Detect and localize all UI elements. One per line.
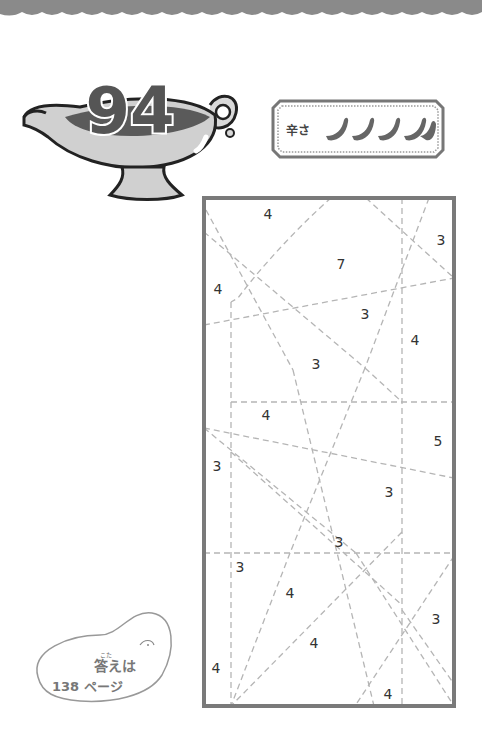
clue-number: 4 [310, 635, 319, 651]
clue-number: 3 [236, 559, 245, 575]
clue-number: 3 [213, 458, 222, 474]
puzzle-number-heading: 94 [10, 45, 240, 205]
clue-number: 3 [312, 356, 321, 372]
clue-number: 4 [264, 206, 273, 222]
clue-number: 3 [432, 611, 441, 627]
clue-number: 3 [437, 232, 446, 248]
clue-number: 4 [384, 686, 393, 702]
clue-number: 5 [434, 433, 443, 449]
puzzle-board: 437434345333343444 [198, 192, 460, 712]
clue-layer: 437434345333343444 [212, 206, 446, 702]
answer-line2: 138 ページ [52, 679, 123, 694]
clue-number: 7 [337, 256, 346, 272]
clue-number: 4 [214, 281, 223, 297]
clue-number: 3 [361, 306, 370, 322]
top-wave-border [0, 0, 482, 20]
clue-number: 4 [262, 407, 271, 423]
clue-number: 4 [212, 660, 221, 676]
puzzle-svg: 437434345333343444 [198, 192, 460, 712]
gravy-boat-illustration: 94 [10, 45, 240, 205]
puzzle-number: 94 [85, 74, 174, 148]
answer-note: こた 答えは 138 ページ [30, 605, 180, 705]
clue-number: 3 [335, 534, 344, 550]
clue-number: 4 [411, 332, 420, 348]
difficulty-label: 辛さ [286, 123, 310, 138]
difficulty-badge: 辛さ [270, 98, 446, 160]
clue-number: 3 [385, 484, 394, 500]
answer-line1: 答えは [94, 658, 136, 674]
clue-number: 4 [286, 585, 295, 601]
